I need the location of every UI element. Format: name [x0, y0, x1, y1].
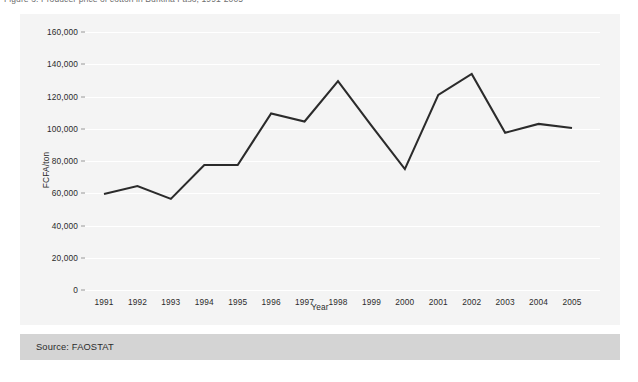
x-axis-tick-label: 1992 — [128, 297, 147, 307]
y-axis-tick-label: 80,000 — [52, 156, 78, 166]
x-axis-tick-label: 1998 — [328, 297, 347, 307]
x-axis-tick-label: 1994 — [195, 297, 214, 307]
x-axis-tick-label: 2004 — [529, 297, 548, 307]
x-axis-tick-label: 2002 — [462, 297, 481, 307]
y-axis-tick-label: 120,000 — [47, 92, 78, 102]
y-axis-tick-label: 40,000 — [52, 221, 78, 231]
x-axis-tick-label: 2001 — [429, 297, 448, 307]
x-axis-tick-label: 1993 — [161, 297, 180, 307]
y-axis-tick-label: 0 — [73, 285, 78, 295]
y-axis-tick-label: 100,000 — [47, 124, 78, 134]
figure-caption-strip: Figure 3. Producer price of cotton in Bu… — [0, 0, 638, 8]
y-axis-tick-label: 20,000 — [52, 253, 78, 263]
x-axis-tick-label: 2000 — [395, 297, 414, 307]
y-axis-tick-label: 60,000 — [52, 188, 78, 198]
plot-area: 020,00040,00060,00080,000100,000120,0001… — [85, 32, 600, 290]
y-axis-tick-label: 140,000 — [47, 59, 78, 69]
source-band: Source: FAOSTAT — [20, 334, 620, 360]
x-axis-tick-label: 1991 — [94, 297, 113, 307]
x-axis-tick-label: 1999 — [362, 297, 381, 307]
y-axis-tick-label: 160,000 — [47, 27, 78, 37]
source-label: Source: FAOSTAT — [36, 342, 114, 352]
line-series-producer-price — [85, 32, 600, 290]
x-axis-tick-label: 1996 — [262, 297, 281, 307]
figure-caption: Figure 3. Producer price of cotton in Bu… — [4, 0, 243, 4]
chart-panel: FCFA/ton Year 020,00040,00060,00080,0001… — [20, 14, 620, 325]
x-axis-tick-label: 2003 — [496, 297, 515, 307]
x-axis-tick-label: 2005 — [562, 297, 581, 307]
x-axis-tick-label: 1997 — [295, 297, 314, 307]
y-axis-title: FCFA/ton — [41, 151, 51, 188]
gridline — [85, 290, 600, 291]
x-axis-tick-label: 1995 — [228, 297, 247, 307]
